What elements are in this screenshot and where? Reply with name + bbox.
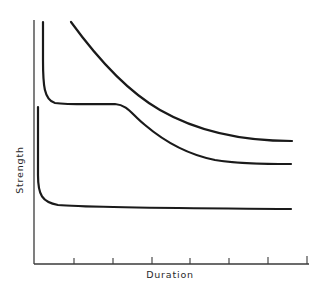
lower-curve [38,107,291,209]
middle-curve [43,22,291,164]
axes [34,20,309,264]
curves [38,22,292,209]
x-axis-label: Duration [146,269,194,280]
upper-curve [71,22,292,141]
strength-duration-chart: Strength Duration [0,0,325,293]
x-axis-ticks [74,256,307,264]
y-axis-label: Strength [14,146,25,194]
